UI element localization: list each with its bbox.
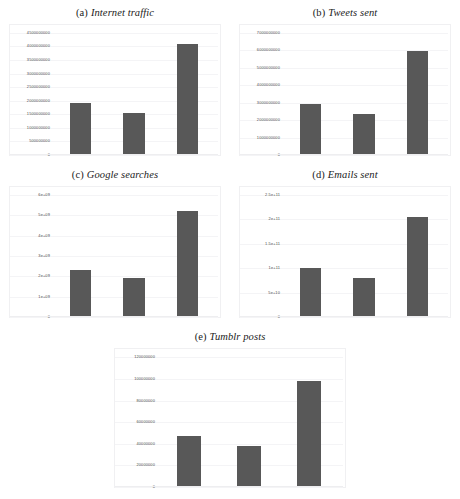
y-axis-labels-c: 01e+092e+093e+094e+095e+096e+09 — [10, 187, 52, 317]
figure-grid: (a)Internet traffic 05000000001000000000… — [0, 0, 460, 488]
x-axis-baseline-b — [240, 154, 448, 155]
subfigure-b: (b)Tweets sent 0100000000020000000003000… — [230, 0, 460, 156]
y-axis-tick-label: 60000000 — [136, 420, 155, 424]
y-axis-tick-label: 5000000000 — [257, 66, 280, 70]
x-axis-baseline-e — [115, 486, 343, 487]
y-axis-tick-label: 4e+09 — [38, 234, 50, 238]
bar — [123, 113, 144, 155]
bar-series-d — [284, 187, 444, 317]
y-axis-tick-label: 2000000000 — [257, 118, 280, 122]
subfigure-title-b: Tweets sent — [325, 7, 377, 18]
y-axis-tick-label: 7000000000 — [257, 31, 280, 35]
gridline — [115, 487, 343, 488]
subfigure-d: (d)Emails sent 05e+101e+111.5e+112e+112.… — [230, 162, 460, 318]
bar-series-c — [54, 187, 214, 317]
y-axis-tick-label: 5e+09 — [38, 213, 50, 217]
bar — [70, 103, 91, 155]
subfigure-caption-d: (d)Emails sent — [239, 162, 451, 186]
bar — [407, 51, 428, 155]
bar-series-a — [54, 25, 214, 155]
bar — [177, 436, 201, 487]
y-axis-tick-label: 2e+11 — [269, 217, 280, 221]
y-axis-labels-b: 0100000000020000000003000000000400000000… — [240, 25, 282, 155]
y-axis-tick-label: 1e+11 — [269, 266, 280, 270]
subfigure-tag-d: (d) — [312, 169, 325, 180]
y-axis-tick-label: 100000000 — [134, 377, 155, 381]
subfigure-title-e: Tumblr posts — [207, 331, 266, 342]
gridline — [240, 155, 448, 156]
y-axis-tick-label: 3500000000 — [27, 58, 50, 62]
y-axis-tick-label: 2500000000 — [27, 85, 50, 89]
subfigure-tag-a: (a) — [76, 7, 88, 18]
bar — [177, 44, 198, 155]
subfigure-caption-e: (e)Tumblr posts — [114, 324, 346, 348]
y-axis-tick-label: 40000000 — [136, 442, 155, 446]
y-axis-tick-label: 4000000000 — [27, 44, 50, 48]
bar — [70, 270, 91, 317]
y-axis-tick-label: 2e+09 — [38, 274, 50, 278]
y-axis-labels-e: 0200000004000000060000000800000001000000… — [115, 349, 157, 487]
y-axis-tick-label: 80000000 — [136, 399, 155, 403]
chart-panel-d: 05e+101e+111.5e+112e+112.5e+11 — [239, 186, 451, 318]
bar — [407, 217, 428, 317]
y-axis-labels-a: 0500000000100000000015000000002000000000… — [10, 25, 52, 155]
gridline — [240, 317, 448, 318]
y-axis-tick-label: 3e+09 — [38, 254, 50, 258]
gridline — [10, 155, 218, 156]
subfigure-e: (e)Tumblr posts 020000000400000006000000… — [105, 324, 355, 488]
chart-panel-c: 01e+092e+093e+094e+095e+096e+09 — [9, 186, 221, 318]
y-axis-tick-label: 1500000000 — [27, 112, 50, 116]
bar-series-b — [284, 25, 444, 155]
subfigure-a: (a)Internet traffic 05000000001000000000… — [0, 0, 230, 156]
x-axis-baseline-c — [10, 316, 218, 317]
gridline — [10, 317, 218, 318]
figure-row-1: (a)Internet traffic 05000000001000000000… — [0, 0, 460, 156]
y-axis-tick-label: 3000000000 — [27, 72, 50, 76]
x-axis-baseline-d — [240, 316, 448, 317]
bar — [353, 114, 374, 155]
bar — [123, 278, 144, 317]
y-axis-tick-label: 4500000000 — [27, 31, 50, 35]
y-axis-tick-label: 3000000000 — [257, 101, 280, 105]
x-axis-baseline-a — [10, 154, 218, 155]
y-axis-tick-label: 1000000000 — [257, 136, 280, 140]
y-axis-tick-label: 1e+09 — [38, 295, 50, 299]
chart-panel-b: 0100000000020000000003000000000400000000… — [239, 24, 451, 156]
bar — [300, 104, 321, 155]
y-axis-tick-label: 500000000 — [29, 139, 50, 143]
bar — [353, 278, 374, 317]
chart-panel-e: 0200000004000000060000000800000001000000… — [114, 348, 346, 488]
y-axis-tick-label: 5e+10 — [268, 291, 280, 295]
subfigure-title-a: Internet traffic — [88, 7, 154, 18]
subfigure-title-d: Emails sent — [325, 169, 378, 180]
subfigure-caption-c: (c)Google searches — [9, 162, 221, 186]
y-axis-tick-label: 20000000 — [136, 463, 155, 467]
bar — [177, 211, 198, 317]
y-axis-tick-label: 6000000000 — [257, 48, 280, 52]
subfigure-caption-b: (b)Tweets sent — [239, 0, 451, 24]
subfigure-tag-b: (b) — [313, 7, 326, 18]
y-axis-tick-label: 120000000 — [134, 355, 155, 359]
bar — [237, 446, 261, 487]
subfigure-c: (c)Google searches 01e+092e+093e+094e+09… — [0, 162, 230, 318]
bar — [300, 268, 321, 317]
subfigure-caption-a: (a)Internet traffic — [9, 0, 221, 24]
y-axis-tick-label: 6e+09 — [38, 193, 50, 197]
figure-row-2: (c)Google searches 01e+092e+093e+094e+09… — [0, 162, 460, 318]
y-axis-tick-label: 4000000000 — [257, 83, 280, 87]
subfigure-tag-e: (e) — [195, 331, 207, 342]
bar-series-e — [159, 349, 339, 487]
y-axis-tick-label: 2000000000 — [27, 99, 50, 103]
bar — [297, 381, 321, 487]
figure-row-3: (e)Tumblr posts 020000000400000006000000… — [0, 324, 460, 488]
chart-panel-a: 0500000000100000000015000000002000000000… — [9, 24, 221, 156]
y-axis-tick-label: 1.5e+11 — [265, 242, 280, 246]
subfigure-title-c: Google searches — [84, 169, 158, 180]
y-axis-tick-label: 1000000000 — [27, 126, 50, 130]
y-axis-tick-label: 2.5e+11 — [265, 193, 280, 197]
subfigure-tag-c: (c) — [72, 169, 84, 180]
y-axis-labels-d: 05e+101e+111.5e+112e+112.5e+11 — [240, 187, 282, 317]
